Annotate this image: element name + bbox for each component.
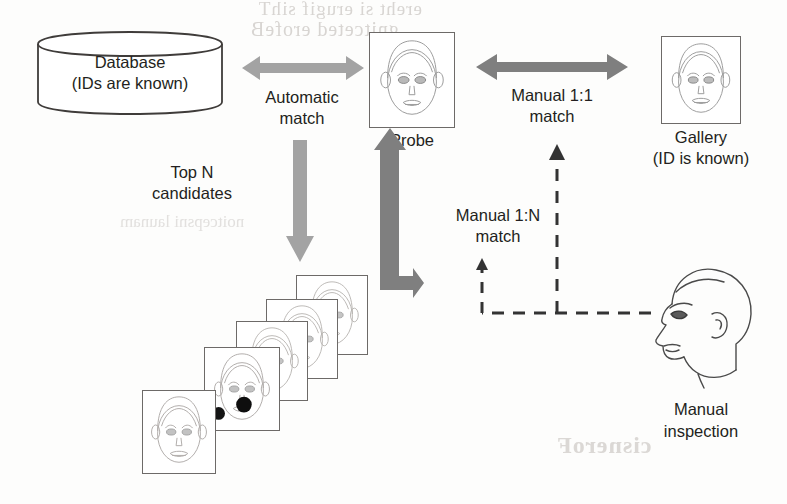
manual-1-1-line1: Manual 1:1	[472, 85, 632, 106]
manual-1-1-label: Manual 1:1 match	[472, 85, 632, 127]
manual-inspection-dashed-routes	[455, 140, 665, 320]
ghost-text-mid: noitcepsni launam	[120, 212, 244, 232]
top-n-line1: Top N	[122, 162, 262, 183]
automatic-match-line1: Automatic	[232, 87, 372, 108]
database-label-line1: Database	[36, 52, 224, 73]
candidates-to-probe-elbow-arrow	[366, 128, 424, 310]
manual-inspection-line1: Manual	[630, 398, 772, 420]
ghost-text-top-1: ereht si erugif sihT	[258, 0, 422, 20]
manual-inspection-label: Manual inspection	[630, 398, 772, 442]
gallery-face-card	[661, 36, 741, 124]
database-label-line2: (IDs are known)	[36, 73, 224, 94]
automatic-match-line2: match	[232, 108, 372, 129]
candidate-card-1	[142, 390, 216, 474]
marker-dot-primary	[236, 397, 252, 413]
database-label: Database (IDs are known)	[36, 52, 224, 94]
diagram-canvas: ereht si erugif sihT gnitceted erofeB ci…	[0, 0, 787, 504]
manual-1-1-line2: match	[472, 106, 632, 127]
top-n-line2: candidates	[122, 183, 262, 204]
automatic-match-arrow	[242, 54, 364, 82]
automatic-match-label: Automatic match	[232, 87, 372, 129]
top-n-candidates-label: Top N candidates	[122, 162, 262, 204]
manual-inspection-line2: inspection	[630, 420, 772, 442]
manual-1-1-arrow	[476, 52, 628, 82]
top-n-candidates-arrow	[286, 140, 314, 262]
probe-face-card	[369, 32, 455, 128]
manual-inspection-profile-head	[636, 262, 764, 392]
